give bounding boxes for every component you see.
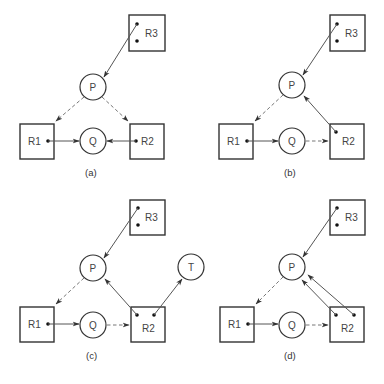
panel-d: R3 P R1 Q R2 (d) (220, 200, 365, 361)
resource-allocation-graphs: R3 P R1 Q R2 (a) R3 P R1 Q R2 (0, 0, 384, 384)
node-label: R1 (28, 136, 41, 147)
node-label: R3 (145, 212, 158, 223)
resource-instance-dot (335, 223, 339, 227)
edge-p-r1 (255, 95, 283, 121)
node-label: Q (288, 320, 296, 331)
panel-caption: (b) (284, 167, 296, 178)
node-label: R2 (142, 323, 155, 334)
node-label: R2 (342, 136, 355, 147)
resource-instance-dot (335, 39, 339, 43)
panel-caption: (d) (284, 350, 296, 361)
edge-p-r2 (102, 97, 128, 121)
panel-caption: (c) (86, 350, 97, 361)
node-label: R3 (145, 28, 158, 39)
edge-p-r1 (256, 277, 283, 304)
node-label: Q (89, 320, 97, 331)
node-label: R1 (228, 319, 241, 330)
node-label: R3 (345, 212, 358, 223)
edge-r2-p (105, 279, 137, 315)
node-label: Q (89, 136, 97, 147)
panel-c: R3 P T R1 Q R2 (c) (20, 200, 204, 361)
node-label: P (289, 80, 296, 91)
node-label: R1 (227, 136, 240, 147)
edge-p-r1 (56, 97, 84, 121)
node-label: R2 (341, 323, 354, 334)
edge-r2-p (304, 96, 336, 132)
node-label: T (188, 262, 194, 273)
node-label: R1 (28, 319, 41, 330)
node-label: P (90, 82, 97, 93)
node-label: P (289, 262, 296, 273)
panel-a: R3 P R1 Q R2 (a) (20, 15, 165, 178)
resource-instance-dot (135, 39, 139, 43)
panel-caption: (a) (85, 167, 97, 178)
node-label: R2 (141, 136, 154, 147)
resource-instance-dot (136, 223, 140, 227)
edge-p-r1 (56, 278, 84, 304)
node-label: R3 (345, 28, 358, 39)
node-label: Q (288, 136, 296, 147)
edge-r2-t (154, 279, 182, 315)
panel-b: R3 P R1 Q R2 (b) (219, 15, 365, 178)
node-label: P (90, 263, 97, 274)
edge-r2-p (302, 280, 336, 315)
